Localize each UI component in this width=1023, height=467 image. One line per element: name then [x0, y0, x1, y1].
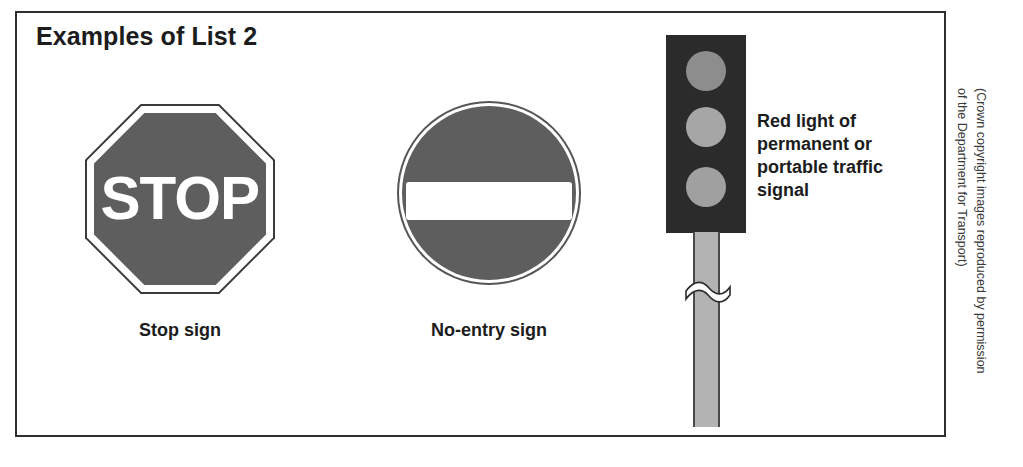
stop-sign-face: STOP: [94, 113, 266, 285]
copyright-credit-line-1: (Crown copyright images reproduced by pe…: [971, 88, 990, 438]
no-entry-sign-bar: [406, 182, 572, 220]
traffic-signal: [666, 35, 746, 427]
pole-break-icon: [685, 275, 731, 309]
no-entry-sign: [397, 101, 581, 285]
traffic-signal-caption-line-3: portable traffic: [757, 156, 937, 179]
copyright-credit: (Crown copyright images reproduced by pe…: [952, 88, 990, 438]
green-lamp: [686, 167, 726, 207]
figure-root: Examples of List 2 STOP Stop sign No-ent…: [0, 0, 1023, 467]
stop-sign-caption: Stop sign: [85, 320, 275, 341]
traffic-signal-caption-line-4: signal: [757, 179, 937, 202]
red-lamp: [686, 51, 726, 91]
stop-sign: STOP: [85, 104, 275, 294]
copyright-credit-line-2: of the Department for Transport): [952, 88, 971, 438]
stop-sign-word: STOP: [101, 167, 260, 229]
no-entry-sign-caption: No-entry sign: [396, 320, 582, 341]
amber-lamp: [686, 107, 726, 147]
traffic-signal-caption-line-2: permanent or: [757, 133, 937, 156]
traffic-signal-caption-line-1: Red light of: [757, 110, 937, 133]
no-entry-sign-face: [402, 106, 576, 280]
traffic-signal-pole: [693, 232, 720, 427]
traffic-signal-caption: Red light of permanent or portable traff…: [757, 110, 937, 202]
page-title: Examples of List 2: [36, 22, 257, 51]
traffic-signal-housing: [666, 35, 746, 233]
